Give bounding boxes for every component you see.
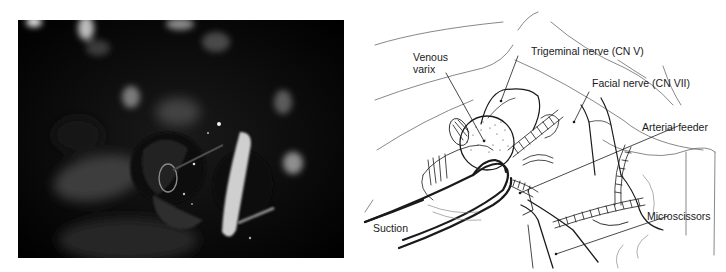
label-arterial-feeder: Arterial feeder — [642, 121, 708, 133]
label-trigeminal-nerve: Trigeminal nerve (CN V) — [531, 45, 644, 57]
illustration-drawing — [363, 0, 726, 272]
label-microscissors: Microscissors — [647, 210, 711, 222]
label-suction: Suction — [373, 222, 408, 234]
label-venous-varix-line2: varix — [413, 63, 435, 75]
photo-content — [18, 20, 344, 258]
label-venous-varix-line1: Venous — [413, 51, 448, 63]
anatomical-illustration: Venous varix Trigeminal nerve (CN V) Fac… — [363, 0, 726, 272]
intraoperative-photo — [18, 20, 344, 258]
label-facial-nerve: Facial nerve (CN VII) — [592, 77, 690, 89]
